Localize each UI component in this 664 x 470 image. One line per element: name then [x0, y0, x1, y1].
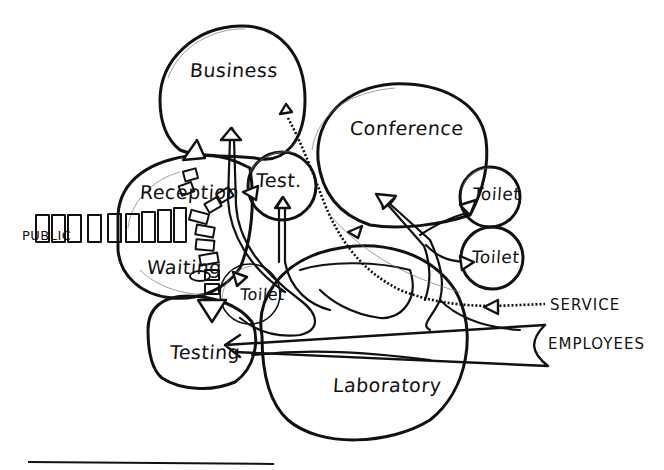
label-testing: Testing [169, 343, 241, 362]
laboratory-bubble [261, 246, 467, 440]
label-reception: Reception [139, 183, 239, 202]
label-toilet-public: Toilet [239, 287, 285, 303]
label-employees-entry: EMPLOYEES [548, 337, 645, 352]
scale-rule [28, 462, 274, 464]
label-toilet-lower: Toilet [471, 249, 520, 266]
label-service-entry: SERVICE [550, 298, 620, 313]
label-toilet-upper: Toilet [472, 186, 521, 203]
bubble-diagram-canvas [0, 0, 664, 470]
label-test: Test. [255, 171, 302, 190]
label-laboratory: Laboratory [332, 376, 442, 395]
label-waiting: Waiting [146, 258, 222, 277]
label-public-entry: PUBLIC [22, 229, 71, 242]
label-business: Business [189, 61, 278, 80]
label-conference: Conference [349, 119, 464, 138]
employees-flow-arrow [225, 325, 548, 366]
